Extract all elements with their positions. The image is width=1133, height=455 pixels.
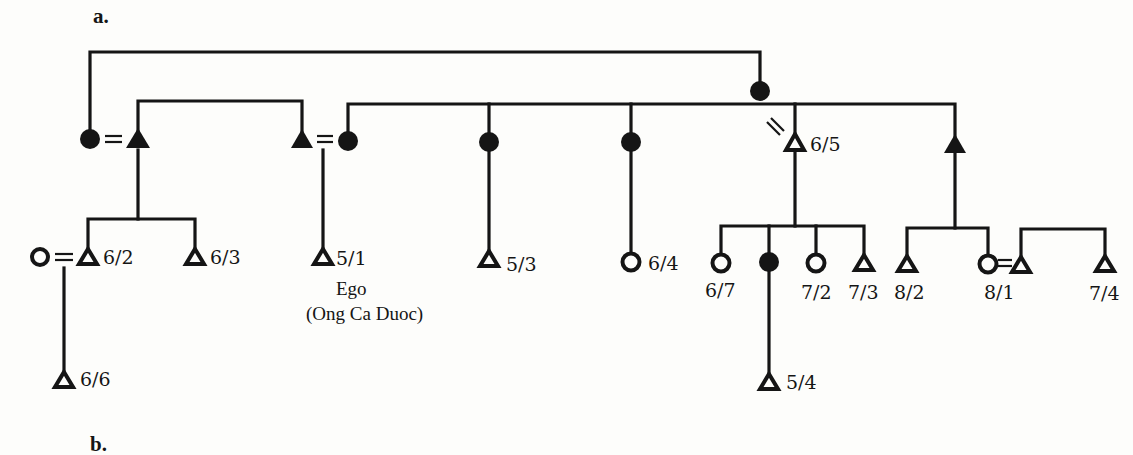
female-deceased-769 [759,252,779,272]
line-left-siblings [138,101,302,132]
line-1021-siblings [1021,229,1105,256]
marriage-symbol-81 [998,260,1012,266]
label-8-1: 8/1 [984,283,1015,302]
line-right-children [907,228,988,256]
female-deceased-489 [479,132,499,152]
female-deceased-top [750,81,770,101]
marriage-symbol-62 [55,254,73,260]
label-8-2: 8/2 [894,283,925,302]
male-living-82 [898,256,916,271]
label-5-1: 5/1 [336,249,367,268]
male-living-74 [1096,256,1114,271]
female-deceased-left [80,129,100,149]
label-6-2: 6/2 [103,248,134,267]
line-top-descent [90,52,760,130]
label-7-4: 7/4 [1089,284,1120,303]
panel-label-b-partial: b. [90,432,107,455]
line-65-children [721,226,864,254]
male-living-66 [55,372,73,387]
male-deceased-mid [291,129,313,148]
female-living-81 [980,256,997,273]
label-6-6: 6/6 [80,370,111,389]
male-living-53 [480,251,498,266]
male-living-63 [186,249,204,264]
label-6-5: 6/5 [810,135,841,154]
female-living-wife-62 [32,249,48,265]
label-5-3: 5/3 [506,255,537,274]
label-7-2: 7/2 [801,283,832,302]
female-living-72 [808,255,825,272]
female-deceased-631 [621,132,641,152]
male-living-62 [79,249,97,264]
ego-label: Ego [336,278,367,300]
male-living-65 [786,134,804,150]
male-living-51-ego [314,249,332,264]
male-living-husband-81 [1012,257,1030,272]
male-deceased-left [126,128,150,148]
label-6-7: 6/7 [705,281,736,300]
line-left-children [88,219,195,249]
label-7-3: 7/3 [848,283,879,302]
male-deceased-right [944,134,966,153]
label-6-3: 6/3 [210,248,241,267]
marriage-symbol-mid [317,136,333,142]
female-living-67 [713,255,730,272]
label-6-4: 6/4 [648,254,679,273]
line-main-siblings [348,104,955,136]
divorce-symbol-65 [767,118,784,135]
male-living-54 [760,374,778,389]
marriage-symbol-left [105,136,122,142]
ego-name: (Ong Ca Duoc) [306,303,423,325]
female-living-64 [623,254,640,271]
male-living-73 [855,255,873,270]
label-5-4: 5/4 [786,373,817,392]
female-deceased-mid [338,131,358,151]
